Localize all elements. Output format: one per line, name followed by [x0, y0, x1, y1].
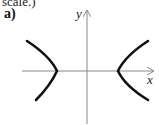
hyperbola-graph: y x [0, 0, 159, 125]
x-axis-label: x [146, 72, 153, 87]
y-axis-label: y [74, 6, 82, 21]
